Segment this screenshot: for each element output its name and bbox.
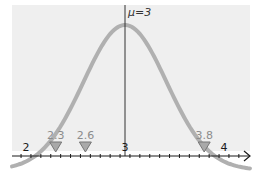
tick-label: 4 (221, 141, 228, 154)
tick-label: 3 (122, 141, 129, 154)
marker-label: 2.3 (47, 129, 65, 142)
marker-label: 2.6 (77, 129, 95, 142)
mean-label: μ=3 (127, 6, 151, 19)
normal-curve-chart: μ=3 234 2.32.63.8 (0, 0, 263, 173)
marker-label: 3.8 (195, 129, 213, 142)
tick-label: 2 (23, 141, 30, 154)
